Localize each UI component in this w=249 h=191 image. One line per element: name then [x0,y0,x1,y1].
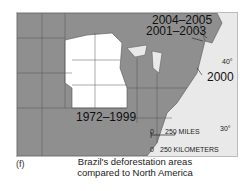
latitude-30: 30° [220,123,231,135]
scale-km-zero: 0 [150,144,154,156]
map: 2004–2005 2001–2003 2000 1972–1999 40° 3… [16,12,238,157]
label-2001-2003: 2001–2003 [146,25,206,37]
latitude-40: 40° [222,56,233,68]
label-2000: 2000 [207,71,234,83]
scale-miles: 250 MILES [165,126,200,138]
scale-miles-zero: 0 [150,126,154,138]
label-1972-1999: 1972–1999 [76,111,136,123]
scale-km: 250 KILOMETERS [160,144,219,156]
figure-label: (f) [16,159,25,169]
figure-caption: Brazil's deforestation areas compared to… [60,157,210,178]
